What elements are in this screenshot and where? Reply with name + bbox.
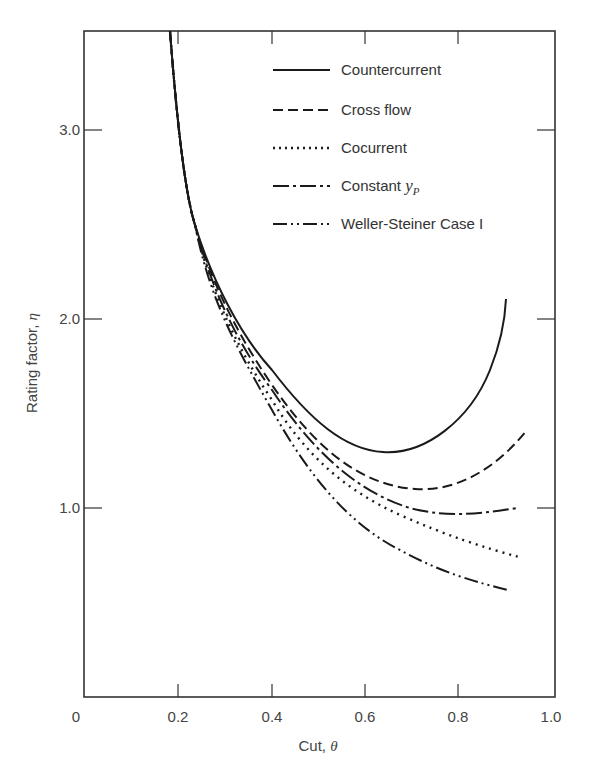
series-weller-steiner	[170, 31, 508, 590]
y-tick-label: 1.0	[59, 499, 80, 516]
x-tick-label: 0.8	[448, 708, 469, 725]
legend-label-constant-yp: Constant yP	[341, 176, 420, 197]
series-countercurrent	[170, 31, 506, 452]
legend-label-cocurrent: Cocurrent	[341, 139, 408, 156]
x-tick-label: 0.4	[262, 708, 283, 725]
y-axis-ticks	[84, 130, 555, 508]
x-axis-ticks	[178, 31, 458, 697]
y-tick-label: 2.0	[59, 310, 80, 327]
series-cross-flow	[170, 31, 527, 489]
x-tick-label: 0.2	[168, 708, 189, 725]
y-axis-title: Rating factor, η	[23, 313, 40, 413]
chart-canvas: 0 0.2 0.4 0.6 0.8 1.0 1.0 2.0 3.0 Cut, θ…	[0, 0, 592, 773]
x-tick-label: 0	[72, 708, 80, 725]
y-tick-label: 3.0	[59, 121, 80, 138]
plot-frame	[84, 31, 555, 697]
x-tick-label: 1.0	[541, 708, 562, 725]
x-axis-title: Cut, θ	[298, 737, 338, 754]
legend-label-cross-flow: Cross flow	[341, 101, 411, 118]
x-tick-label: 0.6	[355, 708, 376, 725]
legend-label-weller-steiner: Weller-Steiner Case I	[341, 215, 483, 232]
legend-label-countercurrent: Countercurrent	[341, 61, 442, 78]
legend	[273, 70, 330, 224]
